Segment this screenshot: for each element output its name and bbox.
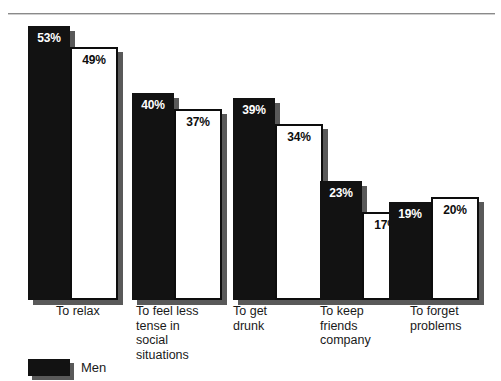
plot-area: 53% 49% 40% 37% [0,0,501,300]
legend: Men [28,359,106,376]
bar-body: 20% [431,197,479,300]
category-label-to-forget-problems: To forget problems [410,304,500,333]
bar-body: 49% [70,47,118,300]
bar-body: 40% [132,93,174,300]
legend-swatch-men [28,359,70,376]
bar-body: 34% [275,124,323,300]
bar-group-to-relax: 53% 49% [28,0,140,300]
bar-value-label: 49% [72,53,116,67]
bar-women-to-forget-problems[interactable]: 20% [431,197,479,300]
legend-swatch-men-wrap [28,359,70,376]
bar-men-to-keep-friends-company[interactable]: 23% [320,181,362,300]
bar-men-to-get-drunk[interactable]: 39% [233,98,275,300]
bar-body: 37% [174,109,222,300]
bar-value-label: 37% [176,115,220,129]
bar-women-to-relax[interactable]: 49% [70,47,118,300]
bar-men-to-feel-less-tense[interactable]: 40% [132,93,174,300]
bar-value-label: 40% [133,98,173,112]
category-label-to-keep-friends-company: To keep friends company [320,304,415,348]
bar-value-label: 19% [390,207,430,221]
bar-value-label: 23% [321,186,361,200]
bar-value-label: 53% [29,31,69,45]
bar-body: 19% [389,202,431,300]
bar-women-to-feel-less-tense[interactable]: 37% [174,109,222,300]
bar-value-label: 20% [433,203,477,217]
bar-body: 23% [320,181,362,300]
bar-group-to-forget-problems: 19% 20% [389,0,501,300]
bar-body: 53% [28,26,70,300]
bar-men-to-forget-problems[interactable]: 19% [389,202,431,300]
bar-group-to-feel-less-tense: 40% 37% [132,0,244,300]
bar-value-label: 39% [234,103,274,117]
category-label-to-feel-less-tense: To feel less tense in social situations [136,304,234,362]
bar-body: 39% [233,98,275,300]
bar-chart-figure: 53% 49% 40% 37% [0,0,501,381]
bar-women-to-get-drunk[interactable]: 34% [275,124,323,300]
legend-label-men: Men [81,359,106,376]
bar-value-label: 34% [277,130,321,144]
category-label-to-get-drunk: To get drunk [233,304,323,333]
bar-men-to-relax[interactable]: 53% [28,26,70,300]
